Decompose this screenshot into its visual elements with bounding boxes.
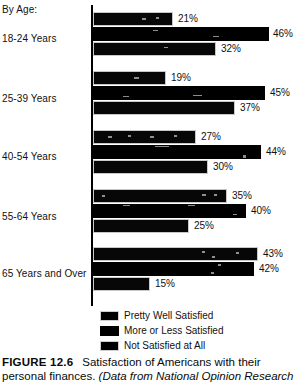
bar-more-or-less-40-54 xyxy=(93,145,261,159)
legend-swatch-pretty-well-satisfied xyxy=(100,311,119,321)
bar-more-or-less-65-and-over xyxy=(93,262,254,276)
bar-value-more-or-less-55-64: 40% xyxy=(251,205,271,217)
bar-more-or-less-18-24 xyxy=(93,27,269,41)
bar-pretty-well-25-39 xyxy=(93,71,166,85)
bar-value-pretty-well-65-and-over: 43% xyxy=(263,248,283,260)
legend-label-not-satisfied-at-all: Not Satisfied at All xyxy=(124,340,205,351)
bar-pretty-well-40-54 xyxy=(93,130,196,144)
bar-value-not-satisfied-65-and-over: 15% xyxy=(155,278,175,290)
bar-not-satisfied-25-39 xyxy=(93,101,235,115)
bar-pretty-well-18-24 xyxy=(93,12,173,26)
bar-value-not-satisfied-40-54: 30% xyxy=(213,161,233,173)
legend-swatch-more-or-less-satisfied xyxy=(100,326,119,336)
bar-value-not-satisfied-55-64: 25% xyxy=(194,220,214,232)
figure-source-note: (Data from National Opinion Research xyxy=(99,370,294,382)
category-label-55-64: 55-64 Years xyxy=(2,211,56,222)
legend-label-pretty-well-satisfied: Pretty Well Satisfied xyxy=(124,310,213,321)
chart-legend: Pretty Well Satisfied More or Less Satis… xyxy=(100,309,290,354)
category-label-40-54: 40-54 Years xyxy=(2,151,56,162)
bar-value-pretty-well-40-54: 27% xyxy=(201,131,221,143)
bar-value-pretty-well-25-39: 19% xyxy=(171,72,191,84)
bar-value-more-or-less-40-54: 44% xyxy=(266,146,286,158)
legend-label-more-or-less-satisfied: More or Less Satisfied xyxy=(124,325,224,336)
bar-more-or-less-25-39 xyxy=(93,86,265,100)
category-label-18-24: 18-24 Years xyxy=(2,33,56,44)
category-label-65-and-over: 65 Years and Over xyxy=(2,268,87,279)
bar-value-more-or-less-25-39: 45% xyxy=(270,87,290,99)
bar-not-satisfied-18-24 xyxy=(93,42,216,56)
bar-pretty-well-65-and-over xyxy=(93,247,258,261)
bar-not-satisfied-40-54 xyxy=(93,160,208,174)
legend-item-more-or-less-satisfied: More or Less Satisfied xyxy=(100,324,290,337)
bar-more-or-less-55-64 xyxy=(93,204,246,218)
bar-value-pretty-well-55-64: 35% xyxy=(232,190,252,202)
figure-caption: FIGURE 12.6Satisfaction of Americans wit… xyxy=(2,355,296,383)
bar-chart: By Age: 18-24 Years 25-39 Years 40-54 Ye… xyxy=(0,0,298,310)
bar-value-more-or-less-18-24: 46% xyxy=(273,28,293,40)
legend-item-not-satisfied-at-all: Not Satisfied at All xyxy=(100,339,290,352)
bar-value-more-or-less-65-and-over: 42% xyxy=(259,263,279,275)
bar-not-satisfied-65-and-over xyxy=(93,277,150,291)
legend-item-pretty-well-satisfied: Pretty Well Satisfied xyxy=(100,309,290,322)
legend-swatch-not-satisfied-at-all xyxy=(100,341,119,351)
figure-number: FIGURE 12.6 xyxy=(2,356,73,368)
bar-not-satisfied-55-64 xyxy=(93,219,189,233)
category-label-25-39: 25-39 Years xyxy=(2,93,56,104)
bar-value-not-satisfied-18-24: 32% xyxy=(221,43,241,55)
axis-group-header: By Age: xyxy=(2,4,37,15)
bar-value-pretty-well-18-24: 21% xyxy=(178,13,198,25)
bar-value-not-satisfied-25-39: 37% xyxy=(240,102,260,114)
bar-pretty-well-55-64 xyxy=(93,189,227,203)
